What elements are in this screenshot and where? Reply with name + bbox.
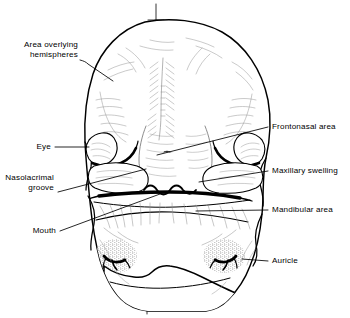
label-frontonasal-area: Frontonasal area bbox=[272, 122, 348, 132]
eye-globe-left bbox=[86, 133, 117, 165]
drawing-ink bbox=[55, 4, 270, 314]
label-area-overlying-hemispheres: Area overlying hemispheres bbox=[2, 40, 78, 61]
eye-globe-right bbox=[234, 133, 265, 165]
label-auricle: Auricle bbox=[272, 256, 316, 266]
label-eye: Eye bbox=[18, 142, 51, 152]
maxillary-swelling-right bbox=[203, 163, 263, 193]
label-mandibular-area: Mandibular area bbox=[272, 205, 350, 215]
auricle-right bbox=[203, 239, 245, 273]
auricle-left bbox=[95, 239, 137, 273]
embryo-head-figure: Area overlying hemispheres Eye Nasolacri… bbox=[0, 0, 350, 318]
label-maxillary-swelling: Maxillary swelling bbox=[272, 166, 350, 176]
label-nasolacrimal-groove: Nasolacrimal groove bbox=[2, 173, 54, 194]
maxillary-swelling-left bbox=[88, 163, 148, 193]
shoulder-notch-right bbox=[238, 290, 253, 302]
label-mouth: Mouth bbox=[12, 226, 56, 236]
